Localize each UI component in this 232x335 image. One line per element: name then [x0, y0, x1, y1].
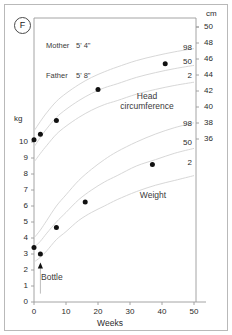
x-tick-label-30: 30 [121, 307, 139, 316]
data-point-weight [150, 162, 155, 167]
centile-label-weight-50: 50 [178, 138, 192, 147]
centile-label-weight-2: 2 [178, 158, 192, 167]
right-tick-label-38: 38 [204, 118, 220, 127]
sex-badge: F [14, 17, 31, 34]
growth-chart-card: F Mother5' 4" Father5' 8" kg cm Weeks He… [0, 0, 232, 335]
right-tick-label-36: 36 [204, 134, 220, 143]
left-tick-label-9: 9 [14, 153, 28, 162]
x-tick-label-50: 50 [185, 307, 203, 316]
left-tick-label-10: 10 [14, 137, 28, 146]
x-tick-label-0: 0 [25, 307, 43, 316]
centile-curve-2 [34, 176, 194, 262]
right-tick-label-46: 46 [204, 54, 220, 63]
left-tick-label-1: 1 [14, 281, 28, 290]
left-tick-label-2: 2 [14, 265, 28, 274]
mother-height-row: Mother5' 4" [46, 41, 91, 51]
x-tick-label-10: 10 [57, 307, 75, 316]
plot-surface [0, 0, 232, 335]
left-axis-unit: kg [14, 114, 22, 123]
bottle-annotation-label: Bottle [41, 272, 63, 282]
x-axis-title: Weeks [80, 318, 140, 328]
right-tick-label-42: 42 [204, 86, 220, 95]
data-point-weight [83, 200, 88, 205]
left-tick-label-0: 0 [14, 297, 28, 306]
bottle-arrow-head [38, 263, 43, 269]
head-circumference-caption-line2: circumference [120, 101, 173, 111]
head-circumference-caption-line1: Head [137, 91, 157, 101]
right-tick-label-48: 48 [204, 38, 220, 47]
parent-heights-note: Mother5' 4" Father5' 8" [46, 21, 91, 101]
left-tick-label-8: 8 [14, 169, 28, 178]
left-tick-label-3: 3 [14, 249, 28, 258]
data-point-head-circumference [96, 87, 101, 92]
data-point-weight [32, 245, 37, 250]
right-tick-label-40: 40 [204, 102, 220, 111]
centile-label-head-circumference-98: 98 [178, 43, 192, 52]
father-height-row: Father5' 8" [46, 71, 91, 81]
mother-label: Mother [46, 41, 76, 51]
left-tick-label-5: 5 [14, 217, 28, 226]
x-tick-label-20: 20 [89, 307, 107, 316]
centile-label-head-circumference-50: 50 [178, 57, 192, 66]
head-circumference-caption: Head circumference [116, 91, 178, 111]
mother-height-value: 5' 4" [76, 41, 91, 50]
data-point-head-circumference [54, 118, 59, 123]
data-point-weight [38, 252, 43, 257]
left-tick-label-6: 6 [14, 201, 28, 210]
data-point-weight [54, 225, 59, 230]
centile-label-head-circumference-2: 2 [178, 71, 192, 80]
right-tick-label-44: 44 [204, 70, 220, 79]
centile-label-weight-98: 98 [178, 119, 192, 128]
weight-caption: Weight [130, 190, 176, 200]
left-tick-label-4: 4 [14, 233, 28, 242]
right-tick-label-50: 50 [204, 22, 220, 31]
data-point-head-circumference [163, 61, 168, 66]
father-height-value: 5' 8" [76, 71, 91, 80]
left-tick-label-7: 7 [14, 185, 28, 194]
father-label: Father [46, 71, 76, 81]
data-point-head-circumference [32, 137, 37, 142]
right-axis-unit: cm [206, 9, 217, 18]
x-tick-label-40: 40 [153, 307, 171, 316]
data-point-head-circumference [38, 132, 43, 137]
